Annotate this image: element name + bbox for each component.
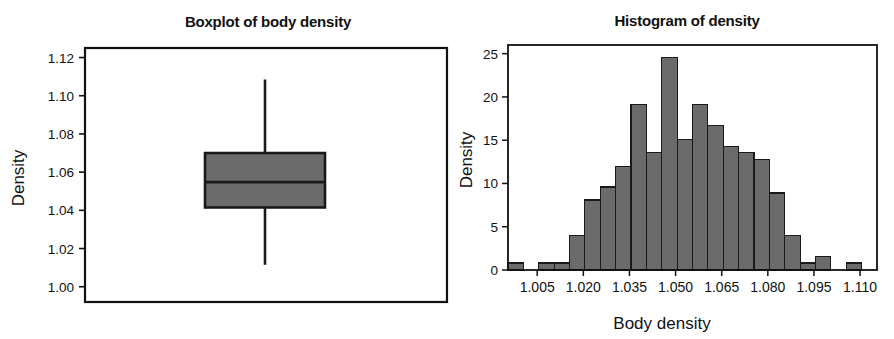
histogram-x-tick-label: 1.050 xyxy=(658,279,693,295)
boxplot-y-tick-label: 1.08 xyxy=(48,127,74,142)
boxplot-ylabel: Density xyxy=(9,149,28,206)
figure-canvas: Boxplot of body density Density 1.001.02… xyxy=(0,0,894,339)
histogram-bar xyxy=(846,263,861,270)
boxplot-y-tick-label: 1.00 xyxy=(48,280,74,295)
histogram-title: Histogram of density xyxy=(614,12,760,29)
boxplot-svg: Boxplot of body density Density 1.001.02… xyxy=(0,0,450,339)
histogram-bars xyxy=(508,57,862,270)
histogram-bar xyxy=(585,200,600,270)
histogram-y-tick-label: 10 xyxy=(483,176,498,191)
histogram-bar xyxy=(816,256,831,270)
histogram-y-tick-label: 0 xyxy=(490,263,498,278)
histogram-x-tick-label: 1.005 xyxy=(520,279,555,295)
boxplot-box-group xyxy=(205,80,325,265)
histogram-x-tick-label: 1.110 xyxy=(843,279,877,295)
histogram-bar xyxy=(693,105,708,270)
histogram-bar xyxy=(739,152,754,270)
histogram-bar xyxy=(677,139,692,270)
histogram-y-tick-label: 15 xyxy=(483,133,498,148)
histogram-bar xyxy=(600,187,615,270)
histogram-bar xyxy=(570,235,585,270)
boxplot-y-tick-label: 1.12 xyxy=(48,51,74,66)
histogram-bar xyxy=(631,105,646,270)
histogram-x-tick-label: 1.080 xyxy=(750,279,785,295)
boxplot-title: Boxplot of body density xyxy=(185,13,352,30)
boxplot-box xyxy=(205,153,325,207)
histogram-svg: Histogram of density Density Body densit… xyxy=(450,0,894,339)
boxplot-y-tick-label: 1.10 xyxy=(48,89,74,104)
histogram-bar xyxy=(539,263,554,270)
histogram-bar xyxy=(616,166,631,270)
histogram-x-tick-label: 1.020 xyxy=(566,279,601,295)
histogram-x-tick-label: 1.065 xyxy=(704,279,739,295)
histogram-x-tick-label: 1.095 xyxy=(796,279,831,295)
boxplot-y-axis: 1.001.021.041.061.081.101.12 xyxy=(48,51,85,295)
histogram-bar xyxy=(785,235,800,270)
histogram-bar xyxy=(554,263,569,270)
histogram-bar xyxy=(708,125,723,270)
histogram-x-axis: 1.0051.0201.0351.0501.0651.0801.0951.110 xyxy=(520,270,878,295)
histogram-xlabel: Body density xyxy=(613,314,711,333)
boxplot-y-tick-label: 1.02 xyxy=(48,242,74,257)
histogram-bar xyxy=(769,193,784,270)
boxplot-panel: Boxplot of body density Density 1.001.02… xyxy=(0,0,450,339)
histogram-bar xyxy=(662,57,677,270)
histogram-ylabel: Density xyxy=(457,131,476,188)
histogram-x-tick-label: 1.035 xyxy=(612,279,647,295)
histogram-bar xyxy=(646,152,661,270)
boxplot-y-tick-label: 1.06 xyxy=(48,165,74,180)
histogram-bar xyxy=(508,263,523,270)
histogram-y-tick-label: 20 xyxy=(483,90,498,105)
histogram-bar xyxy=(800,263,815,270)
histogram-y-tick-label: 5 xyxy=(490,220,498,235)
histogram-y-tick-label: 25 xyxy=(483,47,498,62)
boxplot-y-tick-label: 1.04 xyxy=(48,203,75,218)
histogram-panel: Histogram of density Density Body densit… xyxy=(450,0,894,339)
histogram-y-axis: 0510152025 xyxy=(483,47,508,278)
histogram-bar xyxy=(754,159,769,270)
histogram-bar xyxy=(723,146,738,270)
